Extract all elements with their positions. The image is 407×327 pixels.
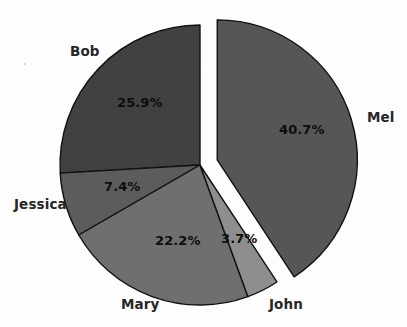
pie-chart-canvas: [0, 0, 407, 327]
slice-label-mary: Mary: [121, 298, 159, 312]
slice-percent-mel: 40.7%: [279, 123, 325, 136]
scan-speck: [24, 63, 26, 65]
slice-percent-jessica: 7.4%: [104, 180, 140, 193]
slice-percent-john: 3.7%: [221, 232, 257, 245]
slice-label-jessica: Jessica: [14, 198, 67, 212]
slice-label-john: John: [269, 298, 303, 312]
slice-label-mel: Mel: [367, 111, 395, 125]
slice-percent-bob: 25.9%: [117, 96, 163, 109]
pie-chart: Bob Mel Jessica Mary John 25.9% 40.7% 7.…: [0, 0, 407, 327]
slice-percent-mary: 22.2%: [155, 234, 201, 247]
slice-label-bob: Bob: [70, 45, 100, 59]
pie-slices: [60, 20, 357, 305]
